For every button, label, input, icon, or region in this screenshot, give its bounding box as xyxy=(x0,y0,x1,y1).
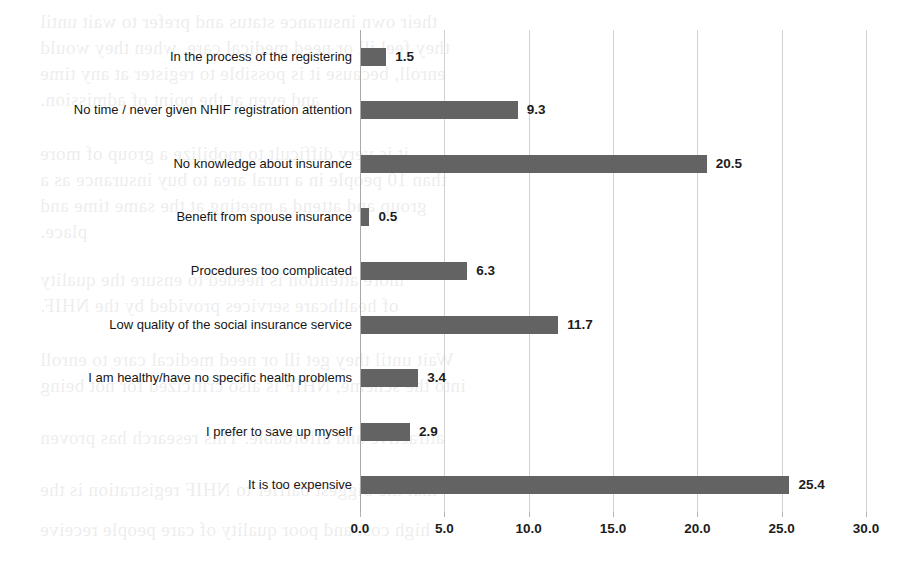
bar-row[interactable]: 20.5 xyxy=(360,137,866,191)
bar-row[interactable]: 11.7 xyxy=(360,298,866,352)
category-axis-label: Benefit from spouse insurance xyxy=(176,208,360,226)
bar-row[interactable]: 9.3 xyxy=(360,84,866,138)
category-axis-label: Procedures too complicated xyxy=(191,262,360,280)
bar-value-label: 11.7 xyxy=(567,315,593,335)
bar-value-label: 0.5 xyxy=(378,207,397,227)
value-axis-tick-label: 10.0 xyxy=(516,521,542,536)
category-axis-labels: In the process of the registeringNo time… xyxy=(0,30,360,512)
bar-value-label: 3.4 xyxy=(427,368,446,388)
bar[interactable] xyxy=(361,476,789,494)
bar[interactable] xyxy=(361,262,467,280)
plot-area: 1.59.320.50.56.311.73.42.925.4 xyxy=(360,30,866,512)
bar[interactable] xyxy=(361,369,418,387)
bar[interactable] xyxy=(361,101,518,119)
bar[interactable] xyxy=(361,208,369,226)
tick-mark xyxy=(697,512,698,517)
value-axis-tick-label: 25.0 xyxy=(769,521,795,536)
bar[interactable] xyxy=(361,423,410,441)
bar-row[interactable]: 0.5 xyxy=(360,191,866,245)
category-label-slot: I prefer to save up myself xyxy=(0,405,360,459)
category-axis-label: I am healthy/have no specific health pro… xyxy=(88,369,360,387)
category-label-slot: Procedures too complicated xyxy=(0,244,360,298)
gridline xyxy=(866,30,867,512)
bar-chart: In the process of the registeringNo time… xyxy=(0,0,911,571)
value-axis-tick-label: 0.0 xyxy=(351,521,370,536)
bar-row[interactable]: 25.4 xyxy=(360,458,866,512)
category-label-slot: Low quality of the social insurance serv… xyxy=(0,298,360,352)
category-axis-label: No knowledge about insurance xyxy=(173,155,360,173)
value-axis-tick-label: 15.0 xyxy=(600,521,626,536)
bar-value-label: 1.5 xyxy=(395,47,414,67)
bar-row[interactable]: 3.4 xyxy=(360,351,866,405)
tick-mark xyxy=(529,512,530,517)
category-axis-label: Low quality of the social insurance serv… xyxy=(109,316,360,334)
value-axis-tick-label: 30.0 xyxy=(853,521,879,536)
category-label-slot: No time / never given NHIF registration … xyxy=(0,84,360,138)
bar-value-label: 9.3 xyxy=(527,100,546,120)
category-label-slot: Benefit from spouse insurance xyxy=(0,191,360,245)
category-label-slot: No knowledge about insurance xyxy=(0,137,360,191)
category-axis-label: In the process of the registering xyxy=(170,48,360,66)
bar[interactable] xyxy=(361,155,707,173)
category-axis-label: It is too expensive xyxy=(248,476,360,494)
category-label-slot: I am healthy/have no specific health pro… xyxy=(0,351,360,405)
bar-value-label: 6.3 xyxy=(476,261,495,281)
tick-mark xyxy=(444,512,445,517)
bar-value-label: 25.4 xyxy=(798,475,824,495)
bar-row[interactable]: 6.3 xyxy=(360,244,866,298)
tick-mark xyxy=(360,512,361,517)
category-axis-label: No time / never given NHIF registration … xyxy=(74,101,360,119)
category-axis-label: I prefer to save up myself xyxy=(206,423,360,441)
bar-row[interactable]: 1.5 xyxy=(360,30,866,84)
bar-value-label: 2.9 xyxy=(419,422,438,442)
bar-value-label: 20.5 xyxy=(716,154,742,174)
tick-mark xyxy=(866,512,867,517)
bar[interactable] xyxy=(361,48,386,66)
category-label-slot: In the process of the registering xyxy=(0,30,360,84)
bar-row[interactable]: 2.9 xyxy=(360,405,866,459)
category-label-slot: It is too expensive xyxy=(0,458,360,512)
value-axis-tick-label: 5.0 xyxy=(435,521,454,536)
tick-mark xyxy=(613,512,614,517)
value-axis-tick-label: 20.0 xyxy=(684,521,710,536)
bar[interactable] xyxy=(361,316,558,334)
tick-mark xyxy=(782,512,783,517)
